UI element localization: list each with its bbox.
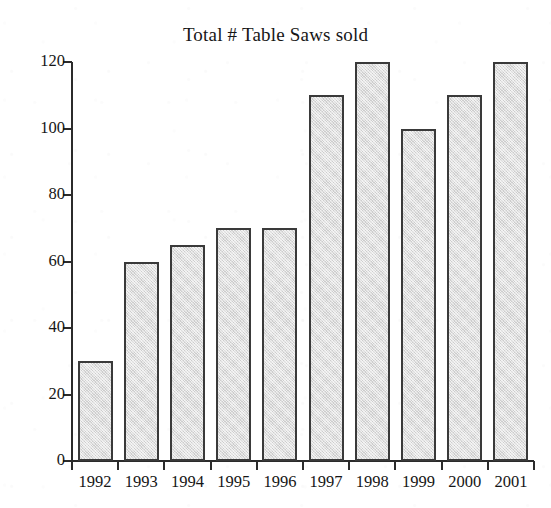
bar-2001 [493,62,528,461]
y-tick-label: 40 [49,319,66,336]
x-tick-mark [487,461,489,470]
bar-1998 [355,62,390,461]
x-tick-mark [71,461,73,470]
x-tick-label-1996: 1996 [263,474,296,491]
bar-1995 [216,228,251,461]
x-tick-label-1998: 1998 [356,474,389,491]
bar-1992 [78,361,113,461]
x-tick-mark [210,461,212,470]
x-tick-label-1995: 1995 [217,474,250,491]
y-tick-label: 0 [57,452,65,469]
bar-1997 [309,95,344,461]
x-tick-mark [163,461,165,470]
y-tick-label: 80 [49,186,66,203]
bar-chart-figure: Total # Table Saws sold 020406080100120 … [0,0,551,508]
x-tick-label-1992: 1992 [79,474,112,491]
bar-1996 [262,228,297,461]
y-tick-label: 120 [40,53,65,70]
bar-1993 [124,262,159,462]
chart-title: Total # Table Saws sold [0,24,551,46]
x-tick-mark [348,461,350,470]
bar-2000 [447,95,482,461]
x-tick-mark [302,461,304,470]
x-tick-mark [441,461,443,470]
bar-1999 [401,129,436,462]
x-tick-mark [117,461,119,470]
x-tick-label-1999: 1999 [402,474,435,491]
x-tick-label-2001: 2001 [494,474,527,491]
plot-area: 020406080100120 199219931994199519961997… [72,62,534,461]
bar-1994 [170,245,205,461]
x-tick-label-1994: 1994 [171,474,204,491]
y-tick-label: 100 [40,120,65,137]
x-tick-label-1993: 1993 [125,474,158,491]
x-tick-mark [533,461,535,470]
x-tick-mark [256,461,258,470]
x-tick-label-1997: 1997 [310,474,343,491]
x-tick-mark [394,461,396,470]
y-tick-label: 20 [49,386,66,403]
y-tick-label: 60 [49,253,66,270]
x-tick-label-2000: 2000 [448,474,481,491]
